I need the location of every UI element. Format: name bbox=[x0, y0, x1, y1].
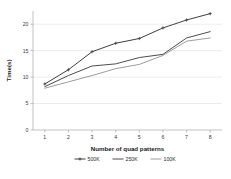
x-axis-title: Number of quad patterns bbox=[91, 145, 165, 152]
legend-label-500K: 500K bbox=[88, 156, 101, 162]
y-tick-label: 20 bbox=[23, 21, 29, 27]
y-tick-label: 0 bbox=[26, 127, 29, 133]
legend-entry-250K[interactable]: 250K bbox=[113, 156, 139, 162]
series-marker-500K bbox=[114, 42, 117, 45]
series-marker-500K bbox=[161, 26, 164, 29]
legend-entry-100K[interactable]: 100K bbox=[151, 156, 177, 162]
x-tick-label: 3 bbox=[91, 134, 94, 140]
chart-canvas: 0510152012345678Time(s)Number of quad pa… bbox=[0, 0, 231, 179]
line-chart: 0510152012345678Time(s)Number of quad pa… bbox=[0, 0, 231, 179]
x-tick-label: 2 bbox=[67, 134, 70, 140]
x-tick-label: 8 bbox=[209, 134, 212, 140]
y-axis-title: Time(s) bbox=[5, 60, 12, 82]
series-line-100K bbox=[45, 38, 210, 88]
x-tick-label: 1 bbox=[43, 134, 46, 140]
legend-label-100K: 100K bbox=[164, 156, 177, 162]
series-line-250K bbox=[45, 32, 210, 87]
x-tick-label: 4 bbox=[114, 134, 117, 140]
y-tick-label: 10 bbox=[23, 74, 29, 80]
legend-entry-500K[interactable]: 500K bbox=[75, 156, 101, 162]
x-tick-label: 6 bbox=[161, 134, 164, 140]
series-marker-500K bbox=[185, 18, 188, 21]
series-marker-500K bbox=[138, 37, 141, 40]
y-tick-label: 5 bbox=[26, 100, 29, 106]
x-tick-label: 7 bbox=[185, 134, 188, 140]
series-marker-500K bbox=[209, 12, 212, 15]
legend-label-250K: 250K bbox=[126, 156, 139, 162]
x-tick-label: 5 bbox=[138, 134, 141, 140]
y-tick-label: 15 bbox=[23, 48, 29, 54]
